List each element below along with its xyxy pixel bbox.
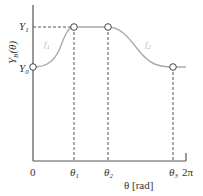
label-f1: f1 <box>44 39 50 51</box>
cam-displacement-diagram: f1 f2 Y1 Y0 YB(θ) 0 θ1 θ2 θ3 2π θ [rad] <box>0 0 203 196</box>
label-y0: Y0 <box>19 62 29 76</box>
tick-0: 0 <box>30 166 36 178</box>
point-theta1-y1 <box>71 24 78 31</box>
point-y0 <box>30 64 37 71</box>
x-axis-label: θ [rad] <box>124 179 153 191</box>
y-axis-label: YB(θ) <box>6 41 20 64</box>
displacement-curve <box>33 27 186 67</box>
tick-theta1: θ1 <box>70 166 79 180</box>
label-f2: f2 <box>145 39 152 51</box>
point-theta2-y1 <box>105 24 112 31</box>
tick-2pi: 2π <box>182 166 194 178</box>
point-theta3-y0 <box>170 64 177 71</box>
tick-theta2: θ2 <box>104 166 113 180</box>
label-y1: Y1 <box>19 20 29 34</box>
tick-theta3: θ3 <box>169 166 178 180</box>
